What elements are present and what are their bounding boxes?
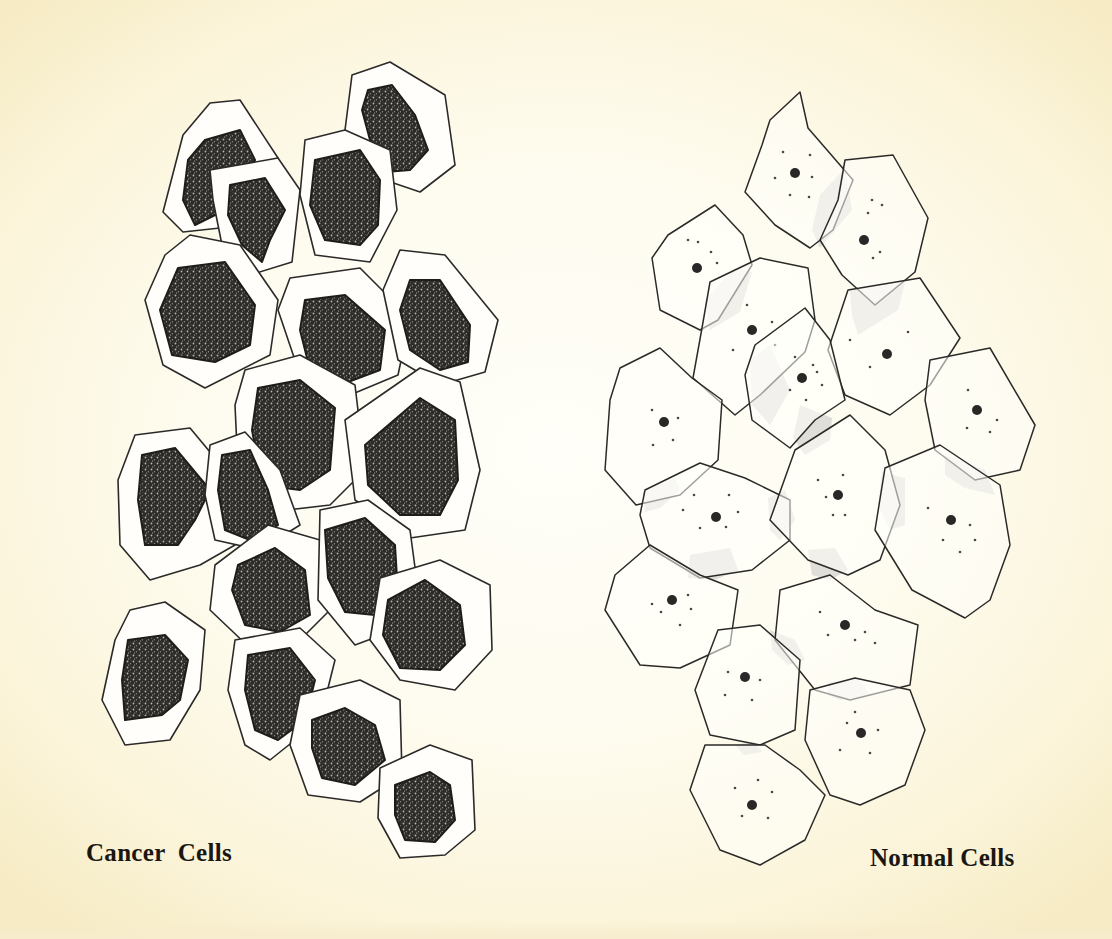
cancer-cell [370,560,492,690]
normal-nucleus [946,515,956,525]
normal-nucleus [659,417,669,427]
normal-nucleus [972,405,982,415]
normal-nucleus [882,349,892,359]
normal-nucleus [747,325,757,335]
normal-nucleus [833,490,843,500]
normal-nucleus [711,512,721,522]
cancer-cell [378,745,475,858]
paper-edge [0,921,1112,939]
normal-nucleus [797,373,807,383]
cell-illustration [0,0,1112,939]
normal-nucleus [740,672,750,682]
normal-nucleus [692,263,702,273]
cancer-cell [300,130,397,262]
normal-cell [690,745,825,865]
normal-nucleus [856,728,866,738]
normal-cells-label: Normal Cells [870,844,1015,872]
figure-canvas: Cancer Cells Normal Cells [0,0,1112,939]
normal-nucleus [840,620,850,630]
normal-cell-cluster [605,92,1035,865]
normal-nucleus [667,595,677,605]
cancer-cell [102,602,205,745]
normal-nucleus [859,235,869,245]
normal-nucleus [790,168,800,178]
normal-nucleus [747,800,757,810]
normal-cell [805,678,925,805]
cancer-nucleus [310,150,380,245]
cancer-cells-label: Cancer Cells [86,839,232,867]
cancer-cell-cluster [102,62,498,858]
